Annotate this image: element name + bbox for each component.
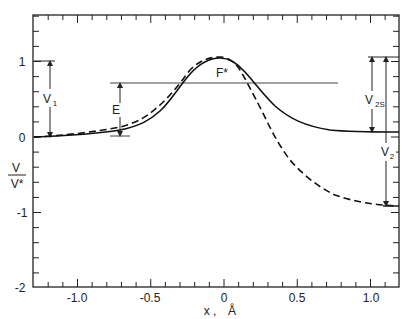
svg-text:1: 1 xyxy=(53,99,58,108)
x-axis-unit: Å xyxy=(228,303,236,318)
energy-label-group: E xyxy=(112,103,121,117)
v2-label-sub: 2 xyxy=(390,152,395,161)
y-axis-label-numerator: V xyxy=(12,161,20,175)
x-tick-label: 1.0 xyxy=(363,291,380,305)
v2-label: V 2 xyxy=(380,143,396,161)
svg-text:2: 2 xyxy=(390,152,395,161)
x-tick-label: 0 xyxy=(221,291,228,305)
axis-ticks xyxy=(33,15,399,287)
v2s-label-sub: 2S xyxy=(375,100,385,109)
x-tick-label: 0.5 xyxy=(289,291,306,305)
transition-state-label: F* xyxy=(216,66,228,80)
energy-label-visible: E xyxy=(112,103,120,117)
x-tick-label: -1.0 xyxy=(67,291,88,305)
v1-label: V 1 xyxy=(43,89,58,108)
potential-energy-chart: 1 0 -1 -2 -1.0 -0.5 0 0.5 1.0 x , Å V V*… xyxy=(0,0,408,319)
y-axis-label-denominator: V* xyxy=(11,177,24,191)
x-tick-label: -0.5 xyxy=(140,291,161,305)
x-tick-labels: -1.0 -0.5 0 0.5 1.0 xyxy=(67,291,380,305)
y-tick-label: -2 xyxy=(15,281,26,295)
svg-text:V: V xyxy=(381,145,389,159)
v2s-label-main: V xyxy=(365,93,373,107)
transition-state-label-text: F* xyxy=(216,66,228,80)
y-tick-label: 1 xyxy=(19,55,26,69)
svg-text:V: V xyxy=(43,92,51,106)
y-axis-label: V V* xyxy=(8,161,26,191)
plot-frame xyxy=(33,15,399,287)
svg-text:V: V xyxy=(365,93,373,107)
svg-text:2S: 2S xyxy=(375,100,385,109)
x-axis-label: x , xyxy=(204,304,217,318)
y-tick-label: 0 xyxy=(19,131,26,145)
v1-label-sub: 1 xyxy=(53,99,58,108)
v2s-label: V 2S xyxy=(365,91,385,109)
v2-label-main: V xyxy=(381,145,389,159)
y-tick-label: -1 xyxy=(17,206,28,220)
v1-label-main: V xyxy=(43,92,51,106)
